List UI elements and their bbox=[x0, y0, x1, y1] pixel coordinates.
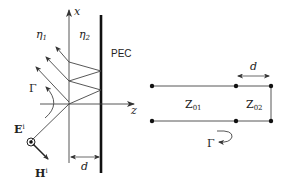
node bbox=[234, 119, 238, 123]
node bbox=[150, 84, 154, 88]
e-field-label: Ei bbox=[14, 123, 25, 136]
medium2-label: η2 bbox=[79, 28, 91, 42]
e-field-dot bbox=[29, 140, 33, 144]
pec-label: PEC bbox=[111, 48, 132, 59]
reflection-curve-arrow bbox=[45, 87, 54, 118]
h-field-arrow bbox=[33, 144, 48, 159]
internal-reflections bbox=[69, 62, 101, 104]
gamma-label-left: Γ bbox=[29, 82, 37, 95]
diagram-svg: x z η1 η2 PEC Γ Ei Hi d d Z01 Z02 Γ bbox=[0, 0, 287, 190]
x-axis-label: x bbox=[74, 5, 81, 18]
medium1-label: η1 bbox=[36, 28, 47, 42]
node bbox=[234, 84, 238, 88]
gamma-curve-arrow bbox=[217, 131, 232, 142]
length-label: d bbox=[250, 60, 257, 73]
z-axis-label: z bbox=[130, 104, 137, 117]
outgoing-ray bbox=[56, 47, 69, 62]
incident-ray bbox=[31, 104, 69, 141]
node bbox=[269, 119, 273, 123]
thickness-label: d bbox=[81, 160, 88, 173]
diagram-canvas: x z η1 η2 PEC Γ Ei Hi d d Z01 Z02 Γ bbox=[0, 0, 287, 190]
incident-curve bbox=[36, 96, 45, 120]
transmission-line-diagram: d Z01 Z02 Γ bbox=[150, 60, 273, 150]
node bbox=[150, 119, 154, 123]
gamma-label-right: Γ bbox=[207, 137, 215, 150]
h-field-label: Hi bbox=[35, 167, 48, 180]
z01-label: Z01 bbox=[185, 98, 202, 112]
slab-diagram: x z η1 η2 PEC Γ Ei Hi d bbox=[14, 5, 137, 180]
z02-label: Z02 bbox=[246, 98, 263, 112]
outgoing-ray bbox=[46, 57, 69, 81]
node bbox=[269, 84, 273, 88]
